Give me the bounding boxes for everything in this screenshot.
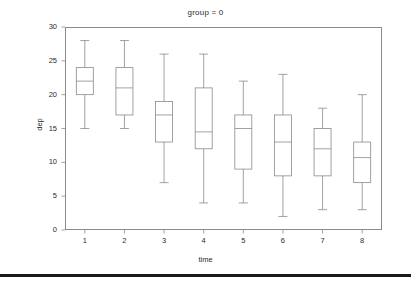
y-tick-label: 25 bbox=[39, 56, 57, 65]
x-tick-label: 3 bbox=[155, 236, 173, 245]
y-tick-label: 30 bbox=[39, 22, 57, 31]
x-tick-label: 7 bbox=[314, 236, 332, 245]
figure: group = 0 051015202530 12345678 dep time bbox=[0, 0, 411, 281]
chart-title: group = 0 bbox=[0, 8, 411, 17]
x-tick-label: 2 bbox=[115, 236, 133, 245]
x-tick-label: 1 bbox=[76, 236, 94, 245]
plot-area bbox=[65, 27, 382, 230]
x-tick-label: 5 bbox=[234, 236, 252, 245]
bottom-rule bbox=[0, 274, 411, 277]
y-tick-label: 5 bbox=[39, 191, 57, 200]
x-tick-label: 8 bbox=[353, 236, 371, 245]
y-tick-label: 0 bbox=[39, 225, 57, 234]
x-tick-label: 4 bbox=[195, 236, 213, 245]
x-axis-ticks bbox=[85, 230, 362, 234]
y-axis-label: dep bbox=[35, 112, 44, 138]
y-tick-label: 20 bbox=[39, 90, 57, 99]
x-tick-label: 6 bbox=[274, 236, 292, 245]
y-tick-label: 10 bbox=[39, 157, 57, 166]
x-axis-label: time bbox=[0, 255, 411, 264]
